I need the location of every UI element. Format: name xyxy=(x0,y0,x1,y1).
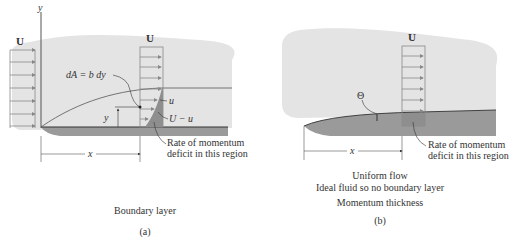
callout-line1-a: Rate of momentum xyxy=(167,137,244,148)
theta-label: Θ xyxy=(357,90,364,101)
distance-x-label-b: x xyxy=(350,145,354,156)
profile-velocity-label-a: U xyxy=(146,33,154,44)
callout-line2-a: deficit in this region xyxy=(167,148,248,159)
deficit-label: U − u xyxy=(169,113,193,124)
caption-uniform-flow: Uniform flow xyxy=(300,170,460,181)
momentum-deficit-region-b xyxy=(402,113,425,126)
area-element-label: dA = b dy xyxy=(66,69,106,80)
fluid-region-b xyxy=(282,28,497,118)
caption-boundary-layer: Boundary layer xyxy=(100,205,190,216)
flat-plate-a xyxy=(41,127,228,136)
y-axis-label: y xyxy=(38,2,42,13)
caption-ideal-fluid: Ideal fluid so no boundary layer xyxy=(290,182,470,193)
profile-velocity-label-b: U xyxy=(408,32,416,43)
inlet-velocity-label: U xyxy=(16,36,24,47)
distance-x-label-a: x xyxy=(88,148,92,159)
sublabel-b: (b) xyxy=(355,215,405,226)
height-y-label: y xyxy=(104,112,108,123)
callout-line2-b: deficit in this region xyxy=(428,150,509,161)
diagram-canvas xyxy=(0,0,521,252)
sublabel-a: (a) xyxy=(120,226,170,237)
caption-momentum-thickness: Momentum thickness xyxy=(300,197,460,208)
callout-line1-b: Rate of momentum xyxy=(428,139,505,150)
fluid-region-a xyxy=(12,35,235,130)
velocity-u-label: u xyxy=(169,95,174,106)
